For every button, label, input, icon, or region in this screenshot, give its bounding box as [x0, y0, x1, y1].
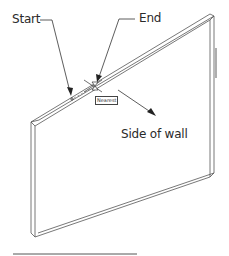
- wall-bottom-back-edge: [38, 173, 214, 233]
- wall-bottom-front-edge: [35, 177, 210, 237]
- wall-top-front-corner: [31, 122, 35, 126]
- wall-top-face: [31, 14, 214, 122]
- wall-top-front-edge: [35, 20, 210, 126]
- wall-drawing: [0, 0, 229, 256]
- start-arrowhead-icon: [67, 87, 73, 96]
- side-of-wall-label: Side of wall: [121, 127, 188, 141]
- nearest-snap-marker-icon: [84, 80, 102, 92]
- end-label: End: [139, 11, 161, 25]
- start-point-marker-icon: [70, 97, 74, 101]
- start-label: Start: [12, 12, 40, 26]
- start-leader: [40, 20, 70, 92]
- wall-bottom-left-corner: [31, 233, 35, 237]
- nearest-snap-tooltip: Nearest: [95, 96, 118, 105]
- side-arrow-shaft: [118, 90, 152, 113]
- side-arrow-head-icon: [147, 108, 156, 116]
